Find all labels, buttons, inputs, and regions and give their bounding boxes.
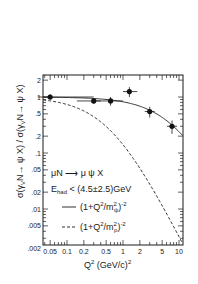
legend-ehad: Ehad < (4.5±2.5)GeV bbox=[51, 184, 131, 195]
legend-solid-label: (1+Q2/m2ψ)-2 bbox=[80, 201, 127, 213]
data-point bbox=[94, 97, 123, 106]
data-point-marker bbox=[108, 98, 113, 103]
y-tick-label: .01 bbox=[31, 206, 41, 213]
x-tick-label: 0.05 bbox=[43, 248, 57, 255]
y-tick-label: .05 bbox=[31, 166, 41, 173]
y-tick-label: .1 bbox=[35, 150, 41, 157]
x-tick-label: 0.5 bbox=[101, 248, 111, 255]
data-point-marker bbox=[169, 124, 174, 129]
legend-dashed-label: (1+Q2/m2ρ)-2 bbox=[80, 221, 126, 233]
x-axis-title: Q2 (GeV/c)2 bbox=[84, 259, 132, 270]
x-tick-labels: 0.050.10.20.512510 bbox=[43, 248, 183, 255]
y-tick-label: .002 bbox=[27, 245, 41, 252]
x-tick-label: 0.2 bbox=[79, 248, 89, 255]
chart: 0.050.10.20.512510 21.5.2.1.05.02.01.005… bbox=[0, 0, 198, 284]
y-axis-title: σ(γVN→ ψ X) / σ(γVN→ ψ X) bbox=[15, 85, 26, 199]
x-tick-label: 5 bbox=[160, 248, 164, 255]
data-points bbox=[38, 87, 177, 134]
y-tick-label: .2 bbox=[35, 133, 41, 140]
psi-dipole-curve bbox=[43, 97, 182, 135]
y-tick-label: .5 bbox=[35, 110, 41, 117]
legend: μN ⟶ μ ψ X Ehad < (4.5±2.5)GeV (1+Q2/m2ψ… bbox=[51, 168, 131, 233]
y-tick-label: 2 bbox=[37, 77, 41, 84]
y-tick-label: .02 bbox=[31, 189, 41, 196]
data-point bbox=[123, 87, 137, 97]
legend-process: μN ⟶ μ ψ X bbox=[51, 168, 103, 178]
y-tick-label: .005 bbox=[27, 222, 41, 229]
data-point-marker bbox=[147, 109, 152, 114]
x-tick-label: 1 bbox=[121, 248, 125, 255]
x-tick-label: 2 bbox=[138, 248, 142, 255]
data-point-marker bbox=[48, 94, 53, 99]
data-point-marker bbox=[127, 89, 132, 94]
y-tick-labels: 21.5.2.1.05.02.01.005.002 bbox=[27, 77, 41, 252]
x-tick-label: 0.1 bbox=[62, 248, 72, 255]
x-tick-label: 10 bbox=[175, 248, 183, 255]
data-point bbox=[38, 94, 94, 100]
